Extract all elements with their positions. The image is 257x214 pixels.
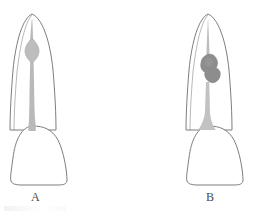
tooth-a-crown-outline [11, 126, 67, 185]
panel-b-group [186, 14, 243, 185]
scan-edge-artifact [4, 206, 66, 211]
tooth-diagram-svg [0, 0, 257, 214]
tooth-b-lesion-highlight [205, 58, 213, 67]
tooth-b-crown-outline [187, 126, 243, 185]
tooth-a-pulp-canal-flare [28, 118, 35, 131]
dental-figure: A B [0, 0, 257, 214]
panel-label-a: A [31, 190, 40, 205]
panel-label-b: B [206, 190, 214, 205]
panel-a-group [10, 14, 67, 185]
